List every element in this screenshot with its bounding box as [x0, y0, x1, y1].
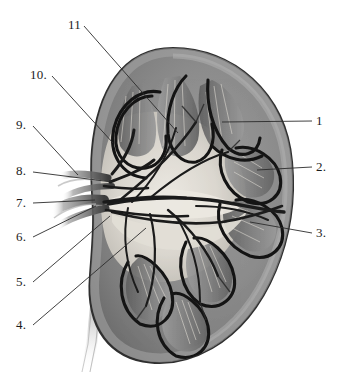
label-6: 6. [16, 230, 26, 243]
label-10: 10. [30, 68, 47, 81]
kidney-illustration [0, 0, 347, 379]
label-7: 7. [16, 196, 26, 209]
leader-line-9 [33, 126, 78, 175]
kidney-diagram-figure: 11 10. 9. 8. 7. 6. 5. 4. 1 2. 3. [0, 0, 347, 379]
label-9: 9. [16, 118, 26, 131]
label-8: 8. [16, 164, 26, 177]
label-11: 11 [68, 18, 81, 31]
label-4: 4. [16, 318, 26, 331]
label-5: 5. [16, 275, 26, 288]
label-2: 2. [316, 160, 326, 173]
label-1: 1 [316, 114, 323, 127]
label-3: 3. [316, 226, 326, 239]
